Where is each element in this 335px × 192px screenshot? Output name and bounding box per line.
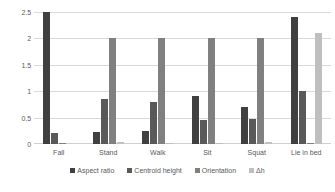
bar[interactable] <box>192 96 199 144</box>
legend-item[interactable]: Orientation <box>195 167 236 174</box>
bar[interactable] <box>257 38 264 144</box>
bar[interactable] <box>93 132 100 144</box>
y-axis-tick-label: 0.5 <box>22 114 31 121</box>
legend-item[interactable]: Aspect ratio <box>70 167 114 174</box>
x-axis-label: Squat <box>232 146 282 160</box>
legend-swatch-icon <box>70 168 75 173</box>
bar[interactable] <box>158 38 165 144</box>
legend-label: Centroid height <box>134 167 181 174</box>
bar[interactable] <box>315 33 322 144</box>
bar[interactable] <box>117 142 124 144</box>
legend-item[interactable]: Centroid height <box>127 167 181 174</box>
bar[interactable] <box>109 38 116 144</box>
legend-swatch-icon <box>127 168 132 173</box>
legend-label: Orientation <box>202 167 236 174</box>
y-axis-tick-label: 2.5 <box>22 9 31 16</box>
chart-legend: Aspect ratioCentroid heightOrientationΔh <box>0 162 335 178</box>
y-axis: 00.511.522.5 <box>0 0 34 160</box>
bar[interactable] <box>142 131 149 144</box>
y-axis-tick-label: 1.5 <box>22 61 31 68</box>
bar-group <box>34 12 84 144</box>
legend-swatch-icon <box>195 168 200 173</box>
y-axis-tick-label: 0 <box>27 141 31 148</box>
x-axis-label: Fall <box>34 146 84 160</box>
legend-label: Aspect ratio <box>77 167 114 174</box>
bar[interactable] <box>200 120 207 144</box>
bar[interactable] <box>150 102 157 144</box>
y-axis-tick-label: 2 <box>27 35 31 42</box>
x-axis: FallStandWalkSitSquatLie in bed <box>34 146 331 160</box>
bar-chart: 00.511.522.5 FallStandWalkSitSquatLie in… <box>0 0 335 192</box>
bar[interactable] <box>216 143 223 144</box>
bar[interactable] <box>101 99 108 144</box>
bar-group <box>282 12 332 144</box>
x-axis-label: Walk <box>133 146 183 160</box>
bar[interactable] <box>59 143 66 144</box>
x-axis-label: Stand <box>84 146 134 160</box>
bar[interactable] <box>265 142 272 144</box>
bar[interactable] <box>51 133 58 144</box>
bar[interactable] <box>241 107 248 144</box>
bar-group <box>183 12 233 144</box>
bar[interactable] <box>249 119 256 144</box>
bar[interactable] <box>43 12 50 144</box>
bar-group <box>84 12 134 144</box>
bar[interactable] <box>166 143 173 144</box>
y-axis-tick-label: 1 <box>27 88 31 95</box>
bar[interactable] <box>208 38 215 144</box>
legend-swatch-icon <box>249 168 254 173</box>
plot-area <box>34 12 331 144</box>
bar-group <box>133 12 183 144</box>
bar[interactable] <box>307 143 314 144</box>
legend-label: Δh <box>256 167 265 174</box>
bar[interactable] <box>299 91 306 144</box>
x-axis-label: Sit <box>183 146 233 160</box>
plot-wrapper: 00.511.522.5 <box>0 0 335 160</box>
legend-item[interactable]: Δh <box>249 167 265 174</box>
bar-group <box>232 12 282 144</box>
bar[interactable] <box>291 17 298 144</box>
bar-groups <box>34 12 331 144</box>
x-axis-label: Lie in bed <box>282 146 332 160</box>
